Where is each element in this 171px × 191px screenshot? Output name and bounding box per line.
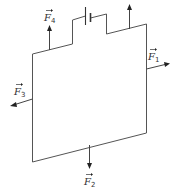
svg-text:1: 1 bbox=[155, 56, 159, 64]
force-f1-label: F 1 bbox=[147, 48, 159, 64]
force-f2-label: F 2 bbox=[83, 173, 95, 189]
force-f3-arrow bbox=[10, 99, 33, 107]
force-f4-label: F 4 bbox=[43, 9, 56, 25]
svg-text:4: 4 bbox=[51, 17, 56, 25]
force-f4-arrow bbox=[47, 25, 52, 50]
force-top-right-arrow bbox=[127, 4, 132, 29]
force-f3-label: F 3 bbox=[13, 83, 25, 99]
current-loop-diagram: F 4 F 1 F 3 F 2 bbox=[0, 0, 171, 191]
battery-icon bbox=[86, 7, 91, 25]
svg-text:2: 2 bbox=[91, 181, 95, 189]
force-f2-arrow bbox=[87, 145, 92, 169]
svg-text:3: 3 bbox=[21, 91, 25, 99]
